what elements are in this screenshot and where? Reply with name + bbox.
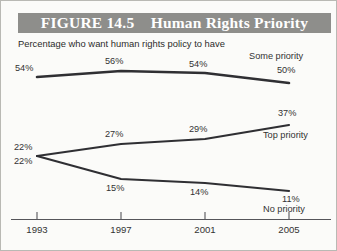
data-label-no-1993: 22%: [14, 156, 32, 166]
series-line-no-priority: [37, 156, 289, 191]
figure-container: FIGURE 14.5 Human Rights Priority Percen…: [0, 0, 337, 251]
data-label-some-1997: 56%: [105, 56, 123, 66]
data-label-some-2001: 54%: [189, 59, 207, 69]
x-axis-label-1997: 1997: [110, 224, 131, 235]
x-axis-label-2001: 2001: [194, 224, 215, 235]
series-label-top-priority: Top priority: [263, 130, 308, 140]
data-label-top-2005: 37%: [278, 108, 296, 118]
data-label-top-1993: 22%: [14, 142, 32, 152]
x-axis-label-2005: 2005: [278, 224, 299, 235]
chart-plot-area: 54% 56% 54% Some priority 50% 22% 27% 29…: [1, 1, 337, 251]
data-label-top-1997: 27%: [105, 129, 123, 139]
series-label-no-priority: No priority: [263, 204, 305, 214]
data-label-no-1997: 15%: [106, 183, 124, 193]
data-label-top-2001: 29%: [189, 124, 207, 134]
data-label-no-2005: 11%: [282, 194, 300, 204]
data-label-no-2001: 14%: [190, 187, 208, 197]
data-label-some-1993: 54%: [15, 63, 33, 73]
x-axis-label-1993: 1993: [26, 224, 47, 235]
series-line-top-priority: [37, 125, 289, 156]
series-label-some-priority: Some priority: [249, 51, 303, 61]
data-label-some-2005: 50%: [277, 65, 295, 75]
series-line-some-priority: [37, 71, 289, 83]
